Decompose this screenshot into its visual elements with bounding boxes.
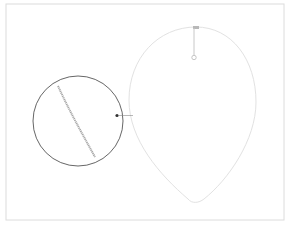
rotation-handle-knob[interactable] (192, 55, 196, 59)
magnifier-circle (33, 76, 123, 166)
egg-shape[interactable] (129, 27, 256, 202)
drawing-canvas[interactable] (0, 0, 287, 227)
canvas-svg (0, 0, 287, 227)
